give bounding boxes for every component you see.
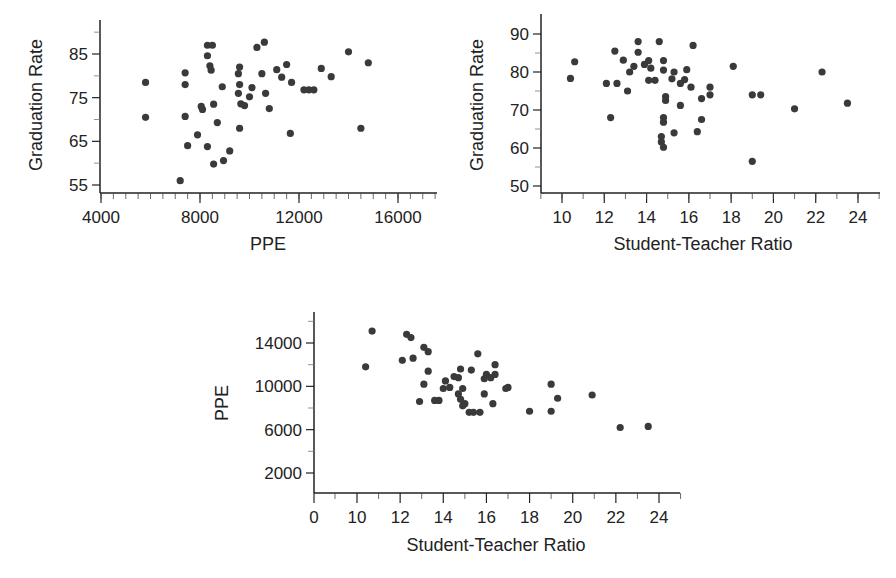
- data-point: [420, 381, 427, 388]
- data-point: [476, 409, 483, 416]
- y-tick-label: 10000: [255, 377, 302, 396]
- data-point: [461, 400, 468, 407]
- x-tick-label: 18: [520, 508, 539, 527]
- x-tick-label: 14: [434, 508, 453, 527]
- data-point: [459, 385, 466, 392]
- data-point: [446, 384, 453, 391]
- data-point: [369, 327, 376, 334]
- x-tick-label: 24: [650, 508, 669, 527]
- x-tick-label: 20: [563, 508, 582, 527]
- data-point: [425, 368, 432, 375]
- data-point: [526, 408, 533, 415]
- data-point: [407, 334, 414, 341]
- data-point: [589, 391, 596, 398]
- data-point: [489, 400, 496, 407]
- data-point: [440, 385, 447, 392]
- y-tick-label: 14000: [255, 334, 302, 353]
- x-tick-label: 12: [391, 508, 410, 527]
- y-axis-title: PPE: [212, 385, 232, 421]
- data-point: [491, 361, 498, 368]
- data-point: [399, 357, 406, 364]
- x-tick-label: 10: [348, 508, 367, 527]
- data-point: [548, 408, 555, 415]
- data-point: [442, 377, 449, 384]
- y-tick-label: 2000: [264, 464, 302, 483]
- data-point: [554, 395, 561, 402]
- data-point: [491, 371, 498, 378]
- data-point: [617, 424, 624, 431]
- x-tick-label: 0: [309, 508, 318, 527]
- data-point: [481, 390, 488, 397]
- data-point: [457, 365, 464, 372]
- data-point: [435, 397, 442, 404]
- data-point: [425, 348, 432, 355]
- chart-ppe-vs-ratio: 01012141618202224200060001000014000Stude…: [0, 0, 896, 578]
- data-point: [416, 398, 423, 405]
- data-point: [645, 423, 652, 430]
- data-point: [504, 384, 511, 391]
- data-point: [409, 355, 416, 362]
- data-point: [474, 350, 481, 357]
- y-tick-label: 6000: [264, 421, 302, 440]
- data-point: [362, 363, 369, 370]
- data-point: [470, 409, 477, 416]
- data-point: [548, 381, 555, 388]
- data-point: [455, 374, 462, 381]
- x-axis-title: Student-Teacher Ratio: [406, 535, 585, 555]
- x-tick-label: 16: [477, 508, 496, 527]
- x-tick-label: 22: [606, 508, 625, 527]
- data-point: [468, 366, 475, 373]
